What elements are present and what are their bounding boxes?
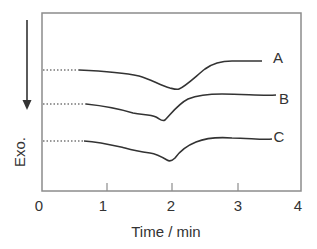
curve-label-c: C — [274, 128, 285, 145]
curve-b: B — [43, 90, 289, 121]
exo-direction-arrow-icon — [23, 20, 32, 110]
y-axis-title: Exo. — [11, 137, 28, 167]
plot-frame — [42, 13, 301, 191]
x-axis-ticks — [107, 183, 238, 191]
x-axis-title: Time / min — [131, 223, 200, 240]
dsc-chart: 0 1 2 3 4 Time / min Exo. A B C — [0, 0, 317, 249]
x-tick-label-0: 0 — [35, 197, 43, 214]
x-tick-label-1: 1 — [99, 197, 107, 214]
x-tick-label-4: 4 — [294, 197, 302, 214]
x-tick-label-2: 2 — [167, 197, 175, 214]
curve-a: A — [43, 49, 283, 89]
curve-c: C — [43, 128, 285, 161]
x-tick-label-3: 3 — [234, 197, 242, 214]
curve-label-a: A — [273, 49, 283, 66]
curve-label-b: B — [279, 90, 289, 107]
